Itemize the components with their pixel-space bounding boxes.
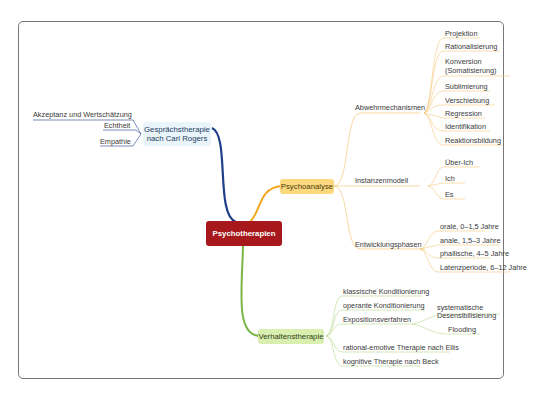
instanzen-child-lines <box>428 167 480 199</box>
link-gespraech <box>212 128 236 222</box>
node-ich[interactable]: Ich <box>445 174 455 183</box>
node-gespraechstherapie[interactable]: Gesprächstherapie nach Carl Rogers <box>143 122 211 146</box>
node-flooding[interactable]: Flooding <box>448 325 476 334</box>
gespraech-label-line2: nach Carl Rogers <box>144 134 210 143</box>
node-konversion[interactable]: Konversion <box>445 57 482 66</box>
node-regression[interactable]: Regression <box>445 109 482 118</box>
node-echtheit[interactable]: Echtheit <box>104 121 130 130</box>
central-node[interactable]: Psychotherapien <box>206 221 282 246</box>
node-verschiebung[interactable]: Verschiebung <box>445 96 489 105</box>
gespraech-label-line1: Gesprächstherapie <box>144 125 210 134</box>
systematische-line2: Desensibilisierung <box>437 312 496 320</box>
node-rationalisierung[interactable]: Rationalisierung <box>445 42 497 51</box>
node-reaktionsbildung[interactable]: Reaktionsbildung <box>445 136 501 145</box>
node-anale[interactable]: anale, 1,5–3 Jahre <box>440 236 500 245</box>
node-identifikation[interactable]: Identifikation <box>445 122 486 131</box>
node-rational-emotive[interactable]: rational-emotive Therapie nach Ellis <box>343 343 459 352</box>
node-phallische[interactable]: phallische, 4–5 Jahre <box>440 249 509 258</box>
node-somatisierung[interactable]: (Somatisierung) <box>445 66 497 75</box>
node-klassische-konditionierung[interactable]: klassische Konditionierung <box>343 287 429 296</box>
node-ueber-ich[interactable]: Über-Ich <box>445 158 473 167</box>
node-operante-konditionierung[interactable]: operante Konditionierung <box>343 301 425 310</box>
node-verhaltenstherapie[interactable]: Verhaltenstherapie <box>258 329 324 344</box>
node-akzeptanz[interactable]: Akzeptanz und Wertschätzung <box>33 110 132 119</box>
node-instanzenmodell[interactable]: Instanzenmodell <box>355 176 408 185</box>
node-psychoanalyse[interactable]: Psychoanalyse <box>280 179 334 194</box>
verhalten-label: Verhaltenstherapie <box>258 332 323 341</box>
link-psycho <box>250 186 282 222</box>
link-verhalten <box>241 246 260 336</box>
node-latenzperiode[interactable]: Latenzperiode, 6–12 Jahre <box>440 263 527 272</box>
node-expositionsverfahren[interactable]: Expositionsverfahren <box>343 315 411 324</box>
node-orale[interactable]: orale, 0–1,5 Jahre <box>440 222 499 231</box>
node-abwehrmechanismen[interactable]: Abwehrmechanismen <box>355 103 425 112</box>
central-label: Psychotherapien <box>213 229 276 238</box>
node-es[interactable]: Es <box>445 190 454 199</box>
node-empathie[interactable]: Empathie <box>100 137 131 146</box>
node-systematische-desensibilisierung[interactable]: systematische Desensibilisierung <box>437 304 496 320</box>
node-entwicklungsphasen[interactable]: Entwicklungsphasen <box>355 240 422 249</box>
node-kognitive-therapie[interactable]: kognitive Therapie nach Beck <box>343 357 439 366</box>
psycho-label: Psychoanalyse <box>281 182 333 191</box>
node-sublimierung[interactable]: Sublimierung <box>445 82 488 91</box>
node-projektion[interactable]: Projektion <box>445 29 477 38</box>
